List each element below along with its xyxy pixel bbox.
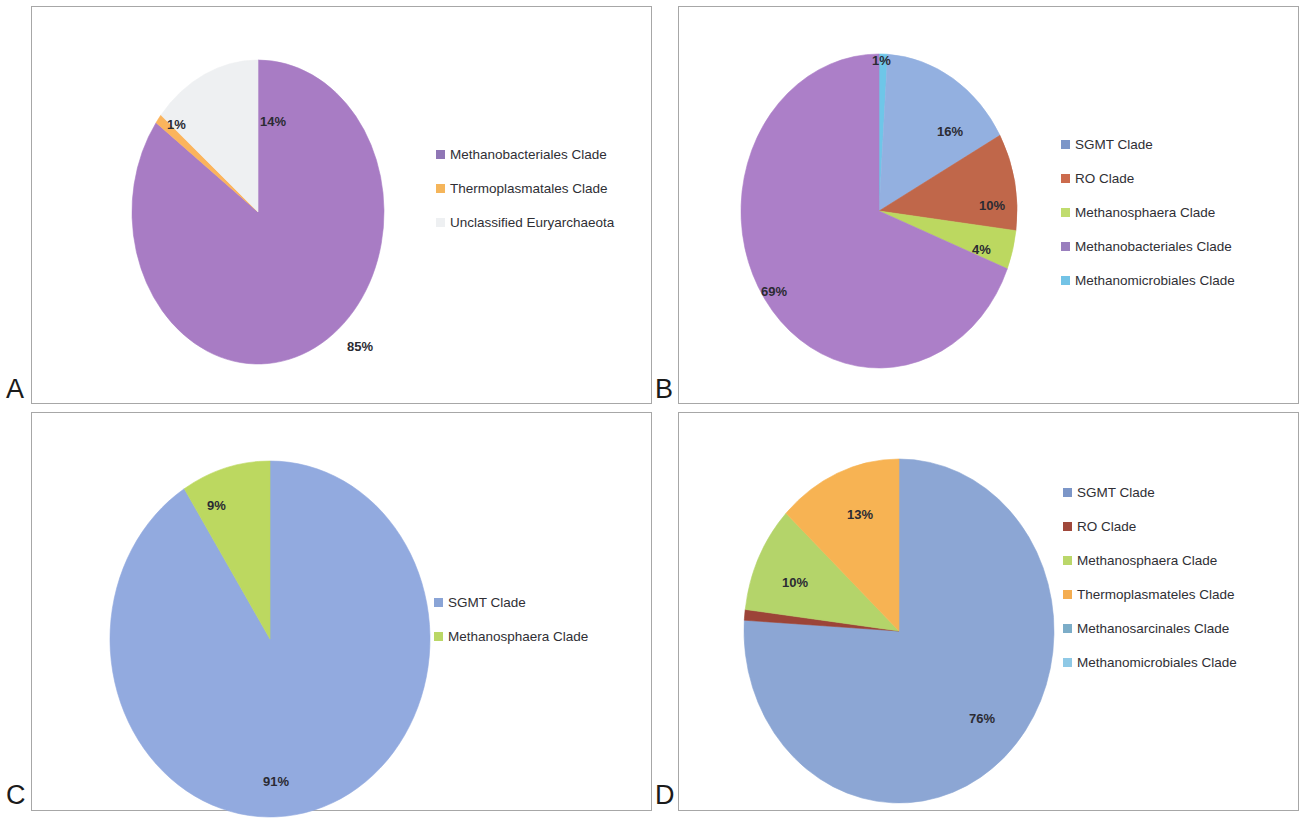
pie-slice-label: 76% xyxy=(969,711,995,726)
panel-letter-a: A xyxy=(6,376,24,403)
pie-slice-label: 69% xyxy=(761,284,787,299)
pie-slice-label: 91% xyxy=(263,774,289,789)
legend-swatch-icon xyxy=(436,218,445,227)
legend-item-label: Methanosphaera Clade xyxy=(1075,205,1215,220)
legend-item[interactable]: RO Clade xyxy=(1061,161,1235,195)
pie-slice-label: 10% xyxy=(782,575,808,590)
pie-slice-label: 1% xyxy=(872,53,891,68)
legend-item-label: Methanosarcinales Clade xyxy=(1077,621,1229,636)
legend-item[interactable]: SGMT Clade xyxy=(1063,475,1237,509)
legend-swatch-icon xyxy=(1061,276,1070,285)
legend-d: SGMT CladeRO CladeMethanosphaera CladeTh… xyxy=(1063,475,1237,679)
legend-swatch-icon xyxy=(1063,658,1072,667)
legend-swatch-icon xyxy=(1063,488,1072,497)
legend-item-label: Methanobacteriales Clade xyxy=(450,147,607,162)
legend-item-label: Unclassified Euryarchaeota xyxy=(450,215,614,230)
panel-letter-b: B xyxy=(655,376,673,403)
pie-slice-label: 85% xyxy=(347,339,373,354)
legend-item-label: Methanobacteriales Clade xyxy=(1075,239,1232,254)
legend-item[interactable]: Methanobacteriales Clade xyxy=(1061,229,1235,263)
legend-item-label: Methanosphaera Clade xyxy=(448,629,588,644)
legend-item[interactable]: Methanosphaera Clade xyxy=(434,619,588,653)
legend-item[interactable]: Methanosphaera Clade xyxy=(1063,543,1237,577)
legend-item-label: SGMT Clade xyxy=(1077,485,1155,500)
legend-item[interactable]: Methanomicrobiales Clade xyxy=(1063,645,1237,679)
legend-item[interactable]: Methanosarcinales Clade xyxy=(1063,611,1237,645)
legend-swatch-icon xyxy=(1061,140,1070,149)
panel-b: 1%16%10%4%69% SGMT CladeRO CladeMethanos… xyxy=(678,6,1299,404)
legend-swatch-icon xyxy=(1063,590,1072,599)
legend-swatch-icon xyxy=(436,184,445,193)
legend-item-label: SGMT Clade xyxy=(448,595,526,610)
panel-c: 91%9% SGMT CladeMethanosphaera Clade xyxy=(31,412,652,811)
pie-slice-label: 10% xyxy=(979,198,1005,213)
pie-slice-label: 14% xyxy=(260,114,286,129)
legend-swatch-icon xyxy=(1063,556,1072,565)
legend-item-label: Methanosphaera Clade xyxy=(1077,553,1217,568)
legend-item[interactable]: Methanobacteriales Clade xyxy=(436,137,614,171)
legend-swatch-icon xyxy=(436,150,445,159)
legend-c: SGMT CladeMethanosphaera Clade xyxy=(434,585,588,653)
pie-slice-label: 9% xyxy=(207,498,226,513)
legend-swatch-icon xyxy=(1063,624,1072,633)
pie-slice-label: 1% xyxy=(167,117,186,132)
legend-item-label: Methanomicrobiales Clade xyxy=(1075,273,1235,288)
legend-b: SGMT CladeRO CladeMethanosphaera CladeMe… xyxy=(1061,127,1235,297)
legend-item[interactable]: SGMT Clade xyxy=(434,585,588,619)
legend-item[interactable]: RO Clade xyxy=(1063,509,1237,543)
legend-swatch-icon xyxy=(1061,242,1070,251)
pie-slice-label: 13% xyxy=(847,507,873,522)
legend-item[interactable]: Unclassified Euryarchaeota xyxy=(436,205,614,239)
panel-a: 85%1%14% Methanobacteriales CladeThermop… xyxy=(31,6,652,404)
legend-swatch-icon xyxy=(434,632,443,641)
pie-slice-label: 4% xyxy=(972,242,991,257)
legend-item[interactable]: Thermoplasmateles Clade xyxy=(1063,577,1237,611)
legend-swatch-icon xyxy=(434,598,443,607)
legend-item[interactable]: Methanosphaera Clade xyxy=(1061,195,1235,229)
pie-slice-label: 16% xyxy=(937,124,963,139)
legend-item-label: SGMT Clade xyxy=(1075,137,1153,152)
legend-a: Methanobacteriales CladeThermoplasmatale… xyxy=(436,137,614,239)
legend-item[interactable]: SGMT Clade xyxy=(1061,127,1235,161)
legend-item-label: RO Clade xyxy=(1075,171,1134,186)
legend-item-label: Methanomicrobiales Clade xyxy=(1077,655,1237,670)
legend-swatch-icon xyxy=(1061,174,1070,183)
legend-item-label: RO Clade xyxy=(1077,519,1136,534)
legend-item[interactable]: Methanomicrobiales Clade xyxy=(1061,263,1235,297)
legend-swatch-icon xyxy=(1061,208,1070,217)
legend-item[interactable]: Thermoplasmatales Clade xyxy=(436,171,614,205)
legend-item-label: Thermoplasmatales Clade xyxy=(450,181,608,196)
legend-swatch-icon xyxy=(1063,522,1072,531)
panel-letter-d: D xyxy=(655,782,675,809)
legend-item-label: Thermoplasmateles Clade xyxy=(1077,587,1235,602)
panel-letter-c: C xyxy=(6,782,26,809)
panel-d: 76%1%10%13% SGMT CladeRO CladeMethanosph… xyxy=(678,412,1299,811)
